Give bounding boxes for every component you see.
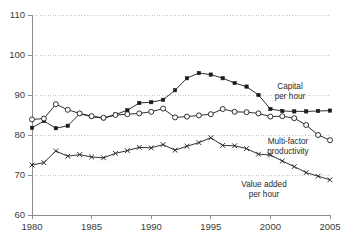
data-point-1996 [221,77,224,80]
y-tick-label-100: 100 [9,49,25,60]
x-axis-tick-labels: 198019851990199520002005 [21,221,340,232]
data-point-1992 [173,89,176,92]
data-point-1999 [256,111,261,116]
data-point-1995 [208,112,213,117]
data-point-2001 [280,159,285,164]
data-point-2003 [304,123,309,128]
x-tick-label-2000: 2000 [260,221,281,232]
data-point-1983 [66,124,69,127]
mfp-label: Multi-factorproductivity [267,137,309,156]
data-point-1980 [30,126,33,129]
y-tick-label-90: 90 [14,89,25,100]
data-point-1981 [41,116,46,121]
data-point-1992 [173,148,178,153]
data-point-1985 [89,114,94,119]
data-point-2004 [316,174,321,179]
data-point-2002 [293,110,296,113]
data-point-1983 [65,107,70,112]
y-axis-tick-labels: 60708090100110 [9,9,25,220]
data-point-1989 [138,101,141,104]
capital-label: Capitalper hour [275,82,306,101]
line-chart: 60708090100110 198019851990199520002005 … [0,0,343,244]
data-point-2002 [292,116,297,121]
data-point-1995 [209,73,212,76]
x-tick-label-1985: 1985 [81,221,102,232]
data-point-1991 [161,98,164,101]
y-tick-label-60: 60 [14,209,25,220]
data-point-2005 [328,177,333,182]
data-point-1982 [54,127,57,130]
data-point-2004 [316,133,321,138]
data-point-2000 [268,114,273,119]
data-point-1986 [101,115,106,120]
data-point-1989 [137,111,142,116]
y-tick-label-110: 110 [10,9,25,20]
value-added-label: Value addedper hour [241,180,287,199]
x-tick-label-1990: 1990 [141,221,162,232]
data-point-1984 [77,111,82,116]
data-point-2005 [328,138,333,143]
data-point-2004 [316,109,319,112]
data-point-2000 [269,107,272,110]
data-point-1996 [220,107,225,112]
x-tick-label-1995: 1995 [200,221,221,232]
data-point-1990 [150,101,153,104]
data-point-1993 [185,77,188,80]
series-annotations: Capitalper hourMulti-factorproductivityV… [241,82,309,199]
data-point-1993 [185,144,190,149]
data-point-1991 [161,106,166,111]
data-point-1998 [245,85,248,88]
data-point-1993 [184,114,189,119]
data-point-1987 [113,113,118,118]
data-point-1997 [233,81,236,84]
data-point-1992 [173,115,178,120]
data-point-2001 [280,114,285,119]
y-tick-label-80: 80 [14,129,25,140]
data-point-2003 [304,170,309,175]
chart-container: 60708090100110 198019851990199520002005 … [0,0,343,244]
data-point-1999 [257,93,260,96]
data-point-1982 [53,149,58,154]
data-point-2001 [281,109,284,112]
y-tick-label-70: 70 [14,169,25,180]
data-point-1994 [196,113,201,118]
x-tick-label-2005: 2005 [319,221,340,232]
data-point-1994 [197,71,200,74]
data-point-1988 [125,112,130,117]
data-point-1982 [53,102,58,107]
x-tick-label-1980: 1980 [21,221,42,232]
data-point-1980 [30,117,35,122]
data-point-1990 [149,109,154,114]
data-point-2005 [328,109,331,112]
data-point-1994 [196,140,201,145]
data-point-1997 [232,109,237,114]
data-point-1998 [244,110,249,115]
data-point-2003 [304,110,307,113]
data-point-1995 [208,135,213,140]
data-point-2002 [292,164,297,169]
